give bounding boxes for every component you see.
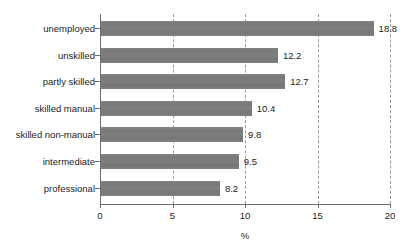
category-label: intermediate	[0, 154, 95, 169]
x-tick-mark	[173, 204, 174, 208]
bar-row: partly skilled12.7	[0, 74, 402, 89]
category-label: skilled manual	[0, 101, 95, 116]
x-tick-label: 0	[97, 210, 102, 221]
y-tick-mark	[95, 188, 100, 189]
bar	[101, 74, 285, 89]
bar	[101, 181, 220, 196]
x-tick-label: 20	[385, 210, 396, 221]
x-tick-mark	[245, 204, 246, 208]
bar	[101, 101, 252, 116]
bar-value-label: 8.2	[225, 181, 238, 196]
x-tick-label: 5	[170, 210, 175, 221]
category-label: unskilled	[0, 48, 95, 63]
y-tick-mark	[95, 161, 100, 162]
x-tick-mark	[390, 204, 391, 208]
bar-row: skilled non-manual9.8	[0, 127, 402, 142]
bar-row: professional8.2	[0, 181, 402, 196]
category-label: partly skilled	[0, 74, 95, 89]
bar-row: unemployed18.8	[0, 21, 402, 36]
x-tick-mark	[318, 204, 319, 208]
x-axis-title: %	[241, 230, 249, 241]
bar	[101, 127, 243, 142]
bar-value-label: 18.8	[379, 21, 398, 36]
bar-value-label: 12.2	[283, 48, 302, 63]
y-tick-mark	[95, 55, 100, 56]
bar-row: unskilled12.2	[0, 48, 402, 63]
category-label: skilled non-manual	[0, 127, 95, 142]
x-tick-label: 10	[240, 210, 251, 221]
bar	[101, 48, 278, 63]
bar-value-label: 9.8	[248, 127, 261, 142]
bar-value-label: 12.7	[290, 74, 309, 89]
category-label: professional	[0, 181, 95, 196]
bar-row: intermediate9.5	[0, 154, 402, 169]
bar	[101, 21, 374, 36]
x-tick-mark	[100, 204, 101, 208]
bar-row: skilled manual10.4	[0, 101, 402, 116]
bar-chart: unemployed18.8unskilled12.2partly skille…	[0, 0, 402, 251]
y-tick-mark	[95, 28, 100, 29]
category-label: unemployed	[0, 21, 95, 36]
bar-value-label: 9.5	[244, 154, 257, 169]
y-tick-mark	[95, 134, 100, 135]
bar-value-label: 10.4	[257, 101, 276, 116]
y-tick-mark	[95, 81, 100, 82]
bar	[101, 154, 239, 169]
x-tick-label: 15	[312, 210, 323, 221]
y-tick-mark	[95, 108, 100, 109]
